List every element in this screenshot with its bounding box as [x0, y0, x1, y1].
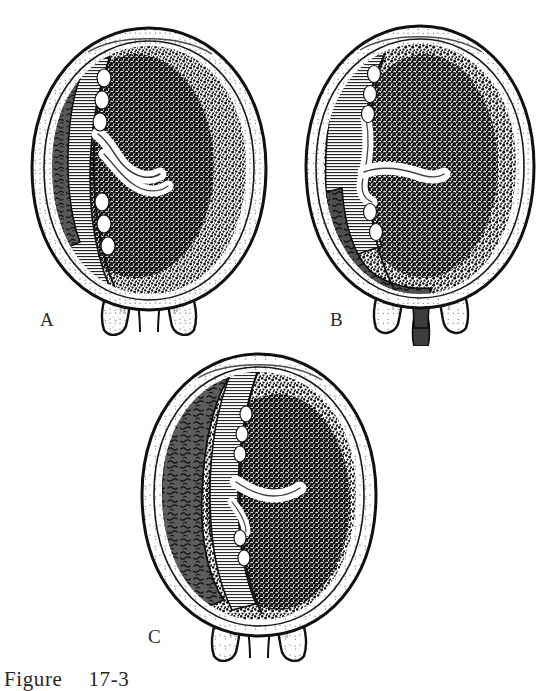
panel-c-complete-concealed-hemorrhage [128, 342, 390, 662]
figure-caption: Figure17-3 [4, 668, 304, 691]
figure-caption-prefix: Figure [4, 668, 62, 691]
panel-label-c: C [148, 627, 161, 646]
panel-b-revealed-hemorrhage [296, 16, 544, 346]
uterus-diagram-b [296, 16, 544, 346]
uterus-diagram-c [128, 342, 390, 662]
panel-a-concealed-hemorrhage [18, 16, 280, 336]
panel-label-b: B [330, 310, 343, 329]
uterus-diagram-a [18, 16, 280, 336]
panel-label-a: A [40, 310, 54, 329]
figure-caption-number: 17-3 [88, 668, 129, 691]
